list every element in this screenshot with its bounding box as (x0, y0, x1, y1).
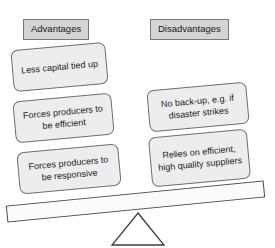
column-header-disadvantages: Disadvantages (150, 19, 229, 40)
column-header-advantages: Advantages (23, 19, 89, 40)
advantage-card-3: Forces producers to be responsive (16, 143, 121, 194)
advantage-card-1: Less capital tied up (10, 42, 108, 92)
advantage-card-2-label: Forces producers to be efficient (18, 102, 109, 135)
advantage-card-3-label: Forces producers to be responsive (22, 152, 116, 185)
disadvantage-card-2: Relies on efficient, high quality suppli… (148, 129, 251, 188)
disadvantage-card-1-label: No back-up, e.g. if disaster strikes (152, 90, 244, 123)
fulcrum-triangle-icon (110, 211, 166, 247)
disadvantage-card-1: No back-up, e.g. if disaster strikes (146, 82, 249, 133)
diagram-canvas: Advantages Disadvantages Less capital ti… (0, 0, 275, 248)
disadvantage-card-2-label: Relies on efficient, high quality suppli… (154, 142, 245, 175)
advantage-card-1-label: Less capital tied up (17, 57, 103, 77)
advantage-card-2: Forces producers to be efficient (12, 93, 114, 144)
